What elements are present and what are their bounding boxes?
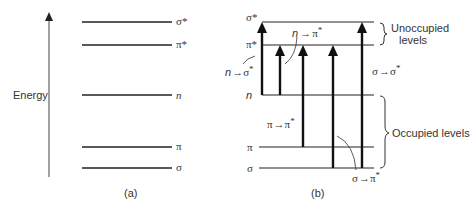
level-label-pi-star: π* <box>176 38 187 50</box>
brace-occupied <box>380 96 389 168</box>
arrowhead-icon <box>328 45 338 56</box>
panel-b: σ* π* n π σ n→σ* n→π* <box>225 11 470 199</box>
leader-n-sigma-star <box>243 56 255 64</box>
level-label-n: n <box>176 89 182 101</box>
energy-axis-label: Energy <box>13 89 48 101</box>
b-level-label-pi-star: π* <box>246 38 257 50</box>
level-label-sigma-star: σ* <box>176 15 187 27</box>
caption-b: (b) <box>311 187 324 199</box>
arrowhead-icon <box>298 45 308 56</box>
energy-level-diagram: Energy σ* π* n π σ (a) σ* π* n π σ <box>0 0 476 208</box>
energy-axis-arrowhead <box>45 12 53 21</box>
leader-n-pi-star <box>285 37 297 64</box>
caption-a: (a) <box>124 187 137 199</box>
brace-unoccupied <box>380 23 387 45</box>
arrowhead-icon <box>275 45 285 56</box>
b-level-label-sigma-star: σ* <box>246 11 257 23</box>
arrowhead-icon <box>357 22 367 33</box>
level-label-pi: π <box>176 140 182 152</box>
arrowhead-icon <box>257 22 267 33</box>
level-label-sigma: σ <box>176 161 182 173</box>
label-sigma-to-sigma-star: σ→σ* <box>372 63 401 77</box>
group-label-unoccupied: Unoccupied levels <box>391 22 452 46</box>
b-level-label-n: n <box>246 89 252 101</box>
leader-sigma-pi-star <box>337 136 356 170</box>
label-sigma-to-pi-star: σ→π* <box>352 170 381 184</box>
panel-a: Energy σ* π* n π σ (a) <box>13 12 187 199</box>
b-level-label-sigma: σ <box>247 162 253 174</box>
label-pi-to-pi-star: π→π* <box>267 116 295 130</box>
group-label-occupied: Occupied levels <box>392 127 470 139</box>
label-n-to-sigma-star: n→σ* <box>225 64 254 78</box>
label-n-to-pi-star: n→π* <box>292 25 323 39</box>
b-level-label-pi: π <box>247 141 253 153</box>
